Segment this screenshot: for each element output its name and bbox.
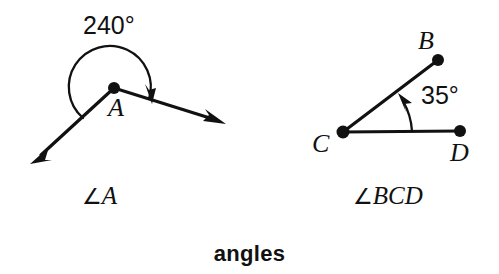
angle-name-bcd-text: BCD — [373, 182, 423, 209]
angle-name-bcd: ∠BCD — [353, 183, 423, 208]
angle-symbol-icon-2: ∠ — [353, 184, 373, 209]
segment-cd — [343, 131, 460, 132]
point-label-a: A — [108, 95, 124, 121]
point-label-d: D — [450, 140, 469, 166]
angle-name-a-text: A — [102, 182, 117, 209]
vertex-dot-b — [432, 54, 444, 66]
point-label-c: C — [312, 131, 329, 157]
vertex-dot-d — [454, 125, 466, 137]
figure-caption: angles — [0, 243, 499, 265]
vertex-dot-c — [337, 126, 350, 139]
measure-label-240: 240° — [83, 13, 135, 38]
angle-name-a: ∠A — [82, 183, 117, 208]
angle-symbol-icon: ∠ — [82, 184, 102, 209]
angles-figure: 240° A ∠A B 35° C D ∠BCD angles — [0, 0, 499, 274]
point-label-b: B — [418, 28, 434, 54]
measure-label-35: 35° — [421, 83, 459, 108]
